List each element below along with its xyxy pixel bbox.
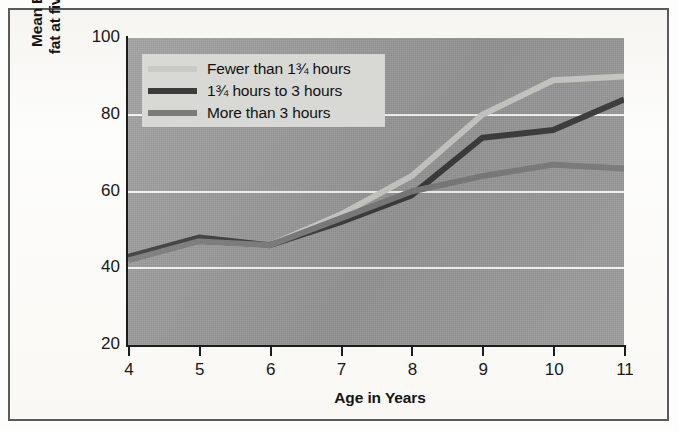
series-line-3 [128, 165, 624, 261]
screenshot-root: Mean Body Fat Index (mm of fat at five b… [0, 0, 679, 431]
legend-swatch [148, 66, 197, 72]
x-tick-label: 5 [183, 360, 217, 380]
y-tick-label: 60 [74, 181, 120, 201]
x-tick-label: 6 [254, 360, 288, 380]
x-tick-label: 7 [325, 360, 359, 380]
x-tick-label: 8 [395, 360, 429, 380]
legend-swatch [148, 110, 197, 116]
legend-entry: 1¾ hours to 3 hours [148, 80, 377, 101]
x-tick-mark [128, 347, 130, 356]
legend-label: Fewer than 1¾ hours [207, 60, 351, 78]
x-tick-label: 11 [608, 360, 642, 380]
chart-legend: Fewer than 1¾ hours1¾ hours to 3 hoursMo… [142, 54, 385, 127]
y-tick-label: 80 [74, 104, 120, 124]
x-axis-line [126, 345, 626, 347]
x-tick-mark [553, 347, 555, 356]
x-tick-label: 10 [537, 360, 571, 380]
legend-entry: More than 3 hours [148, 102, 377, 123]
legend-swatch [148, 88, 197, 94]
y-tick-label: 40 [74, 257, 120, 277]
legend-entry: Fewer than 1¾ hours [148, 58, 377, 79]
y-axis-title-line-2: fat at five body sites, summed) [46, 0, 64, 54]
x-tick-label: 9 [466, 360, 500, 380]
x-tick-label: 4 [112, 360, 146, 380]
x-tick-mark [624, 347, 626, 356]
x-tick-mark [199, 347, 201, 356]
x-axis-title: Age in Years [150, 389, 610, 407]
y-axis-title-line-1: Mean Body Fat Index (mm of [28, 0, 46, 47]
x-tick-mark [270, 347, 272, 356]
legend-label: 1¾ hours to 3 hours [207, 82, 342, 100]
y-tick-label: 20 [74, 334, 120, 354]
x-tick-mark [482, 347, 484, 356]
x-tick-mark [341, 347, 343, 356]
y-axis-title: Mean Body Fat Index (mm of fat at five b… [16, 0, 76, 98]
x-tick-mark [411, 347, 413, 356]
y-tick-label: 100 [74, 27, 120, 47]
legend-label: More than 3 hours [207, 104, 330, 122]
y-axis-line [126, 36, 128, 347]
